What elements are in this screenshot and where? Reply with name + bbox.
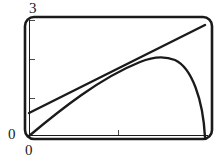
graph-plot <box>0 0 218 161</box>
tangent-line <box>29 25 205 113</box>
